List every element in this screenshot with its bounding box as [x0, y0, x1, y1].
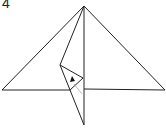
base-line-right — [84, 89, 165, 90]
outer-triangle-right-edge — [84, 6, 165, 90]
origami-diagram — [0, 0, 166, 130]
folded-flap-left-edge — [60, 6, 84, 125]
fold-arrow-icon — [70, 76, 75, 82]
crease-line — [74, 84, 82, 94]
